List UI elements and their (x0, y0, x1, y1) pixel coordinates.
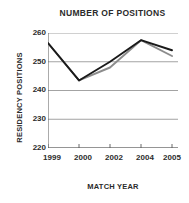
x-tick-label: 1999 (35, 153, 69, 162)
x-tick-label: 2005 (155, 153, 189, 162)
chart-figure: NUMBER OF POSITIONS RESIDENCY POSITIONS … (0, 0, 189, 203)
gridlines (48, 33, 178, 148)
plot-svg (48, 33, 178, 148)
data-line-series-gray (48, 40, 172, 80)
x-tick-label: 2002 (97, 153, 131, 162)
data-series-layer (48, 40, 172, 80)
plot-area (48, 33, 178, 148)
x-axis-ticks (48, 144, 172, 148)
x-tick-label: 2000 (66, 153, 100, 162)
